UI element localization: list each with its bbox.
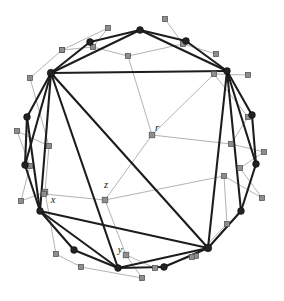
primary-node-marker xyxy=(22,162,29,169)
secondary-node-marker xyxy=(14,128,19,133)
primary-node-group xyxy=(22,27,260,272)
secondary-node-marker xyxy=(27,75,32,80)
secondary-node-marker xyxy=(213,51,218,56)
primary-edge xyxy=(208,211,241,248)
primary-node-marker xyxy=(253,161,260,168)
primary-node-marker xyxy=(238,208,245,215)
secondary-node-marker xyxy=(139,275,144,280)
secondary-node-marker xyxy=(261,149,266,154)
primary-edge xyxy=(90,30,140,42)
primary-edge xyxy=(51,73,118,268)
primary-edge xyxy=(51,73,208,248)
secondary-node-marker xyxy=(41,191,46,196)
primary-node-marker xyxy=(224,68,231,75)
secondary-edge xyxy=(214,74,248,75)
vertex-label-x: x xyxy=(50,194,56,205)
primary-node-marker xyxy=(183,38,190,45)
secondary-node-marker xyxy=(78,264,83,269)
secondary-edge xyxy=(128,56,152,135)
vertex-label-y: y xyxy=(117,244,123,255)
secondary-node-group xyxy=(14,16,266,280)
primary-node-marker xyxy=(204,244,212,252)
secondary-node-marker xyxy=(149,132,155,138)
vertex-label-group: rzxy xyxy=(50,122,160,255)
secondary-node-marker xyxy=(245,72,250,77)
geometric-graph-figure: rzxy xyxy=(0,0,284,301)
primary-node-marker xyxy=(87,39,94,46)
secondary-edge xyxy=(93,47,128,56)
secondary-node-marker xyxy=(53,251,58,256)
secondary-node-marker xyxy=(46,143,51,148)
secondary-node-marker xyxy=(259,195,264,200)
secondary-node-marker xyxy=(162,16,167,21)
secondary-edge xyxy=(152,74,214,135)
primary-edge xyxy=(51,71,227,73)
diagram-canvas: rzxy xyxy=(0,0,284,301)
secondary-node-marker xyxy=(102,197,108,203)
primary-node-marker xyxy=(115,265,122,272)
secondary-node-marker xyxy=(59,47,64,52)
primary-edge xyxy=(186,41,227,71)
primary-node-marker xyxy=(161,264,168,271)
primary-node-marker xyxy=(137,27,144,34)
secondary-node-marker xyxy=(18,198,23,203)
secondary-node-marker xyxy=(237,165,242,170)
secondary-node-marker xyxy=(152,265,157,270)
secondary-node-marker xyxy=(123,252,129,258)
secondary-edge xyxy=(224,176,227,224)
vertex-label-z: z xyxy=(103,179,108,190)
primary-edge-group xyxy=(25,30,256,268)
secondary-node-marker xyxy=(125,53,130,58)
secondary-edge xyxy=(56,254,81,267)
secondary-edge-group xyxy=(17,19,264,278)
primary-node-marker xyxy=(71,247,78,254)
primary-node-marker xyxy=(24,114,31,121)
secondary-node-marker xyxy=(105,25,110,30)
primary-node-marker xyxy=(249,112,256,119)
primary-node-marker xyxy=(47,69,55,77)
secondary-node-marker xyxy=(211,71,216,76)
secondary-node-marker xyxy=(221,173,226,178)
primary-node-marker xyxy=(37,208,44,215)
secondary-edge xyxy=(21,166,30,201)
primary-edge xyxy=(140,30,186,41)
secondary-edge xyxy=(224,176,262,198)
secondary-node-marker xyxy=(189,254,194,259)
secondary-edge xyxy=(105,176,224,200)
secondary-edge xyxy=(105,135,152,200)
primary-edge xyxy=(164,248,208,267)
secondary-node-marker xyxy=(224,221,229,226)
secondary-node-marker xyxy=(228,141,233,146)
